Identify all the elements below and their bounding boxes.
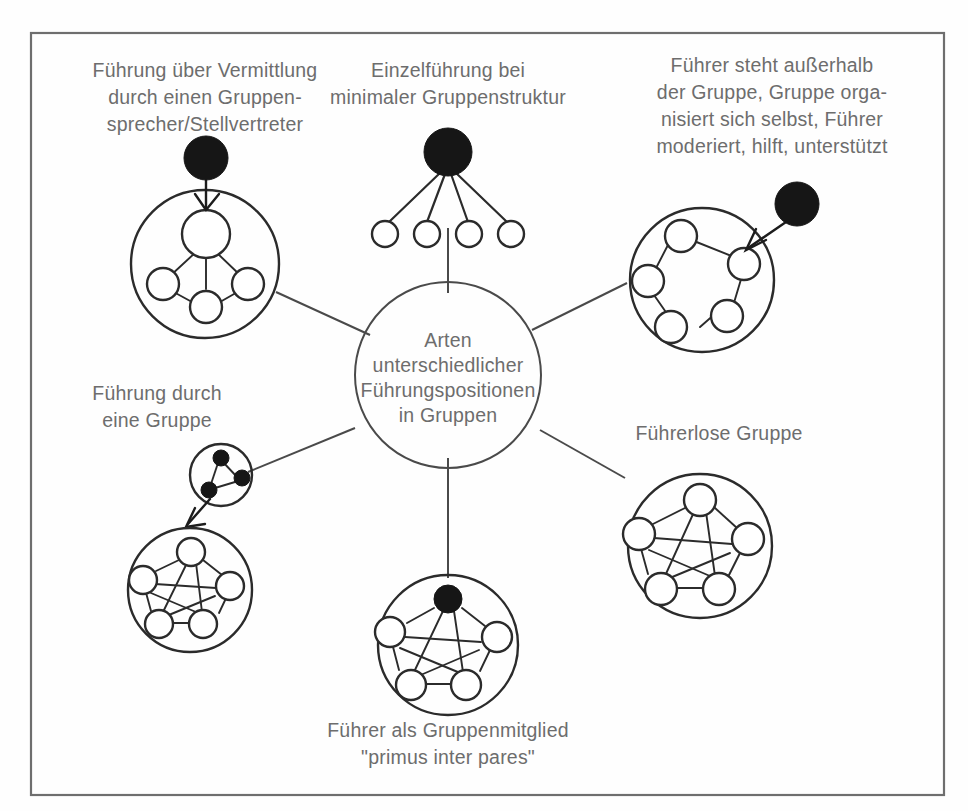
caption-einzelfuehrung-line-2: minimaler Gruppenstruktur: [330, 86, 566, 108]
spoke-to-durch-gruppe: [248, 428, 355, 472]
leader-node-vermittlung: [184, 136, 228, 180]
node-primus: Führer als Gruppenmitglied "primus inter…: [327, 575, 568, 768]
member-node-dg-lower-right: [189, 610, 217, 638]
arrow-shaft-dg: [188, 499, 210, 524]
caption-durch-gruppe-line-2: eine Gruppe: [102, 409, 212, 431]
caption-vermittlung-line-3: sprecher/Stellvertreter: [107, 113, 304, 135]
hub-line-1: Arten: [424, 329, 472, 351]
hub-group: Arten unterschiedlicher Führungsposition…: [355, 282, 541, 468]
member-node-dg-top: [177, 538, 205, 566]
leader-node-dg-top: [213, 450, 229, 466]
hub-line-3: Führungspositionen: [361, 379, 536, 401]
caption-vermittlung-line-2: durch einen Gruppen-: [108, 86, 302, 108]
edge-dg-2: [203, 560, 222, 575]
caption-ausserhalb-line-3: nisiert sich selbst, Führer: [661, 108, 883, 130]
member-node-pr-lower-left: [396, 670, 426, 700]
member-node-dg-lower-left: [145, 610, 173, 638]
node-einzelfuehrung: Einzelführung bei minimaler Gruppenstruk…: [330, 59, 566, 247]
member-node-ab-top: [665, 220, 697, 252]
leadership-positions-diagram: Arten unterschiedlicher Führungsposition…: [0, 0, 968, 811]
edge-ef-1: [389, 172, 441, 222]
edge-ef-4: [455, 172, 507, 222]
node-fuehrerlos: Führerlose Gruppe: [623, 422, 803, 618]
edge-dg-1: [156, 560, 179, 571]
edge-pr-2: [462, 608, 485, 626]
member-node-dg-right: [216, 572, 244, 600]
member-node-dg-left: [129, 566, 157, 594]
member-node-ef-2: [414, 221, 440, 247]
caption-vermittlung-line-1: Führung über Vermittlung: [93, 59, 318, 81]
leader-node-dg-left: [201, 482, 217, 498]
member-node-ab-right: [728, 248, 760, 280]
member-node-ab-lower-left: [655, 311, 687, 343]
edge-dg-8: [155, 584, 216, 588]
member-node-vm-bottom: [190, 291, 222, 323]
caption-ausserhalb-line-4: moderiert, hilft, unterstützt: [656, 135, 888, 157]
spoke-to-ausserhalb: [532, 283, 627, 330]
caption-durch-gruppe-line-1: Führung durch: [92, 382, 221, 404]
member-node-ab-left: [632, 265, 664, 297]
leader-node-ausserhalb: [775, 182, 819, 226]
hub-line-4: in Gruppen: [399, 404, 497, 426]
edge-fl-4: [729, 551, 741, 575]
member-node-ef-4: [498, 221, 524, 247]
member-node-ef-1: [372, 221, 398, 247]
member-node-ef-3: [456, 221, 482, 247]
edge-pr-4: [480, 648, 491, 671]
caption-ausserhalb-line-1: Führer steht außerhalb: [671, 54, 874, 76]
member-node-ab-lower-right: [711, 300, 743, 332]
spoke-to-vermittlung: [276, 292, 370, 335]
member-node-fl-lower-left: [645, 573, 677, 605]
member-node-pr-left: [375, 617, 405, 647]
caption-ausserhalb-line-2: der Gruppe, Gruppe orga-: [657, 81, 887, 103]
spokesperson-node: [182, 210, 230, 258]
member-node-fl-right: [732, 523, 764, 555]
node-durch-gruppe: Führung durch eine Gruppe: [92, 382, 252, 652]
member-node-vm-right: [232, 268, 264, 300]
edge-fl-1: [653, 508, 685, 524]
edge-dg-6: [163, 563, 187, 612]
leader-node-einzelfuehrung: [424, 128, 472, 176]
edge-fl-8: [654, 538, 732, 544]
edge-fl-7: [706, 512, 715, 576]
edge-ab-1: [694, 241, 734, 257]
spoke-lines: [248, 228, 627, 578]
member-node-pr-right: [482, 622, 512, 652]
member-node-fl-lower-right: [703, 573, 735, 605]
member-node-pr-lower-right: [451, 670, 481, 700]
caption-fuehrerlos-line-1: Führerlose Gruppe: [635, 422, 802, 444]
edge-dg-t3: [215, 482, 235, 488]
leader-node-primus: [434, 585, 462, 613]
caption-primus-line-2: "primus inter pares": [361, 746, 535, 768]
caption-einzelfuehrung-line-1: Einzelführung bei: [371, 59, 525, 81]
leader-node-dg-right: [234, 470, 250, 486]
edge-fl-2: [715, 508, 737, 528]
edge-pr-1: [407, 608, 434, 623]
edge-ef-2: [427, 174, 445, 222]
member-node-vm-left: [147, 268, 179, 300]
member-node-fl-top: [684, 484, 716, 516]
node-ausserhalb: Führer steht außerhalb der Gruppe, Grupp…: [630, 54, 888, 352]
member-node-fl-left: [623, 518, 655, 550]
caption-primus-line-1: Führer als Gruppenmitglied: [327, 719, 568, 741]
spoke-to-fuehrerlos: [540, 430, 625, 478]
edge-pr-6: [414, 611, 443, 672]
edge-pr-8: [405, 637, 481, 642]
diagram-root: Arten unterschiedlicher Führungsposition…: [0, 0, 968, 811]
hub-line-2: unterschiedlicher: [373, 354, 524, 376]
